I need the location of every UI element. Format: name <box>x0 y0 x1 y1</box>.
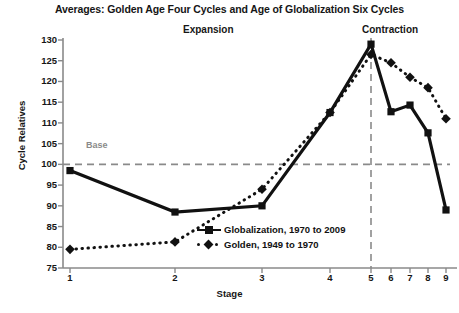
legend-marker-diamond-icon <box>196 239 222 251</box>
x-tick-3: 3 <box>252 272 272 283</box>
y-tick-100: 100 <box>31 158 57 169</box>
x-tick-8: 8 <box>418 272 438 283</box>
y-tick-80: 80 <box>31 241 57 252</box>
legend-marker-square-icon <box>196 224 222 236</box>
y-tick-130: 130 <box>31 34 57 45</box>
chart-legend: Globalization, 1970 to 2009 Golden, 1949… <box>196 222 345 252</box>
plot-area <box>0 0 459 313</box>
y-tick-125: 125 <box>31 55 57 66</box>
x-tick-4: 4 <box>320 272 340 283</box>
legend-label-golden: Golden, 1949 to 1970 <box>224 239 319 250</box>
x-tick-9: 9 <box>436 272 456 283</box>
chart-container: Averages: Golden Age Four Cycles and Age… <box>0 0 459 313</box>
x-tick-1: 1 <box>60 272 80 283</box>
y-tick-95: 95 <box>31 179 57 190</box>
x-tick-7: 7 <box>400 272 420 283</box>
y-tick-120: 120 <box>31 75 57 86</box>
x-tick-5: 5 <box>361 272 381 283</box>
y-tick-110: 110 <box>31 117 57 128</box>
x-tick-6: 6 <box>381 272 401 283</box>
legend-label-globalization: Globalization, 1970 to 2009 <box>224 224 345 235</box>
y-tick-75: 75 <box>31 262 57 273</box>
y-tick-105: 105 <box>31 138 57 149</box>
legend-item-golden: Golden, 1949 to 1970 <box>196 237 345 252</box>
y-tick-90: 90 <box>31 200 57 211</box>
y-tick-115: 115 <box>31 96 57 107</box>
x-tick-2: 2 <box>165 272 185 283</box>
legend-item-globalization: Globalization, 1970 to 2009 <box>196 222 345 237</box>
y-tick-85: 85 <box>31 221 57 232</box>
